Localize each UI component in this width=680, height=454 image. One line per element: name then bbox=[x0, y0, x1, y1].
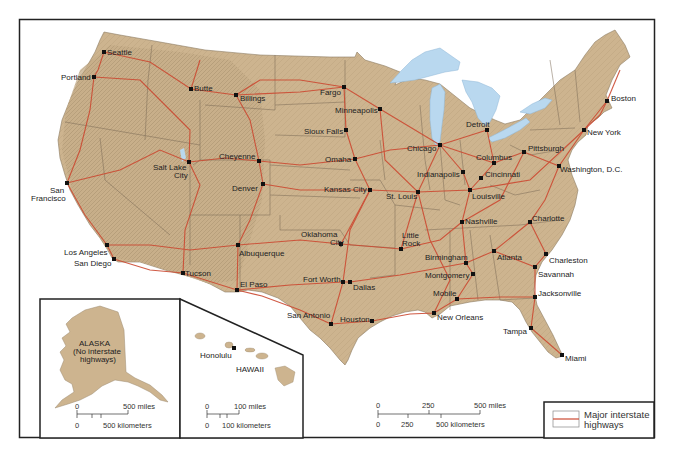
label-indianapolis: Indianapolis bbox=[417, 170, 460, 179]
legend: Major interstate highways bbox=[544, 402, 654, 438]
label-new-orleans: New Orleans bbox=[437, 313, 483, 322]
label-chicago: Chicago bbox=[407, 144, 437, 153]
legend-label-line2: highways bbox=[584, 419, 624, 430]
label-minneapolis: Minneapolis bbox=[335, 106, 378, 115]
label-san-francisco-2: Francisco bbox=[31, 194, 66, 203]
alaska-scale-km: 500 kilometers bbox=[103, 421, 152, 430]
label-cheyenne: Cheyenne bbox=[219, 152, 256, 161]
main-scale-top-0: 0 bbox=[376, 401, 380, 410]
hawaii-scale-zero-bottom: 0 bbox=[205, 421, 209, 430]
main-scale-bottom-0: 0 bbox=[376, 420, 380, 429]
honolulu-label: Honolulu bbox=[200, 351, 232, 360]
label-savannah: Savannah bbox=[538, 270, 574, 279]
label-boston: Boston bbox=[611, 94, 636, 103]
label-charleston: Charleston bbox=[549, 256, 588, 265]
label-salt-lake-2: City bbox=[174, 171, 188, 180]
label-washington-dc: Washington, D.C. bbox=[560, 165, 622, 174]
hawaii-scale-km: 100 kilometers bbox=[222, 421, 271, 430]
label-los-angeles: Los Angeles bbox=[64, 248, 108, 257]
main-scale-top-250: 250 bbox=[422, 401, 435, 410]
label-butte: Butte bbox=[194, 84, 213, 93]
label-billings: Billings bbox=[240, 94, 265, 103]
label-charlotte: Charlotte bbox=[532, 214, 565, 223]
label-omaha: Omaha bbox=[325, 155, 352, 164]
label-jacksonville: Jacksonville bbox=[538, 289, 582, 298]
label-seattle: Seattle bbox=[107, 48, 132, 57]
label-denver: Denver bbox=[232, 184, 258, 193]
label-portland: Portland bbox=[61, 73, 91, 82]
label-san-antonio: San Antonio bbox=[287, 311, 331, 320]
label-columbus: Columbus bbox=[476, 153, 512, 162]
main-scale-top-500: 500 miles bbox=[474, 401, 506, 410]
label-el-paso: El Paso bbox=[240, 280, 268, 289]
label-tampa: Tampa bbox=[503, 327, 528, 336]
label-dallas: Dallas bbox=[353, 283, 375, 292]
label-houston: Houston bbox=[340, 315, 370, 324]
label-kansas-city: Kansas City bbox=[324, 185, 367, 194]
label-detroit: Detroit bbox=[466, 120, 490, 129]
label-san-diego: San Diego bbox=[74, 259, 112, 268]
alaska-scale-zero-bottom: 0 bbox=[75, 421, 79, 430]
honolulu-marker bbox=[232, 346, 236, 350]
label-new-york: New York bbox=[587, 128, 622, 137]
label-atlanta: Atlanta bbox=[497, 253, 522, 262]
label-fargo: Fargo bbox=[320, 88, 341, 97]
hawaii-scale-miles: 100 miles bbox=[234, 402, 266, 411]
label-pittsburgh: Pittsburgh bbox=[528, 144, 564, 153]
label-albuquerque: Albuquerque bbox=[239, 249, 285, 258]
label-nashville: Nashville bbox=[465, 217, 498, 226]
label-birmingham: Birmingham bbox=[425, 253, 468, 262]
us-interstate-map: Seattle Portland Butte Billings Fargo Mi… bbox=[0, 0, 680, 454]
main-scale-bottom-500: 500 kilometers bbox=[436, 420, 485, 429]
alaska-note-2: highways) bbox=[80, 355, 116, 364]
alaska-scale-zero-top: 0 bbox=[75, 402, 79, 411]
label-mobile: Mobile bbox=[433, 289, 457, 298]
label-oklahoma-city-2: City bbox=[330, 238, 344, 247]
label-miami: Miami bbox=[565, 354, 587, 363]
alaska-inset: ALASKA (No interstate highways) 0 500 mi… bbox=[40, 299, 180, 438]
main-scale-bottom-250: 250 bbox=[401, 420, 414, 429]
label-louisville: Louisville bbox=[472, 192, 505, 201]
label-fort-worth: Fort Worth bbox=[303, 275, 341, 284]
label-montgomery: Montgomery bbox=[425, 271, 469, 280]
alaska-scale-miles: 500 miles bbox=[123, 402, 155, 411]
label-sioux-falls: Sioux Falls bbox=[304, 127, 343, 136]
hawaii-title: HAWAII bbox=[236, 365, 264, 374]
hawaii-scale-zero-top: 0 bbox=[205, 402, 209, 411]
label-little-rock-2: Rock bbox=[402, 239, 421, 248]
label-st-louis: St. Louis bbox=[386, 192, 417, 201]
label-cincinnati: Cincinnati bbox=[485, 170, 520, 179]
label-tucson: Tucson bbox=[185, 269, 211, 278]
